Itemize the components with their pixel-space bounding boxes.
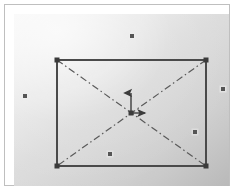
- marker-dot: [130, 34, 134, 38]
- corner-top-right: [204, 58, 209, 63]
- corner-top-left: [55, 58, 60, 63]
- figure-svg: [14, 14, 229, 186]
- marker-dot: [193, 130, 197, 134]
- marker-top-centre: [129, 33, 136, 40]
- centre-origin-marker: [129, 111, 134, 116]
- corner-bottom-right: [204, 164, 209, 169]
- marker-right-outer: [220, 86, 227, 93]
- marker-dot: [221, 87, 225, 91]
- marker-dot: [108, 152, 112, 156]
- figure-background-group: [14, 14, 229, 186]
- figure-background-grain: [14, 14, 229, 186]
- marker-right-inner: [192, 129, 199, 136]
- marker-left-outer: [22, 93, 29, 100]
- figure-canvas: [14, 14, 229, 186]
- marker-bottom-inner: [107, 151, 114, 158]
- figure-root: Rectangular plate with diagonal centre-l…: [0, 0, 241, 193]
- figure-frame: [4, 4, 230, 186]
- corner-bottom-left: [55, 164, 60, 169]
- marker-dot: [23, 94, 27, 98]
